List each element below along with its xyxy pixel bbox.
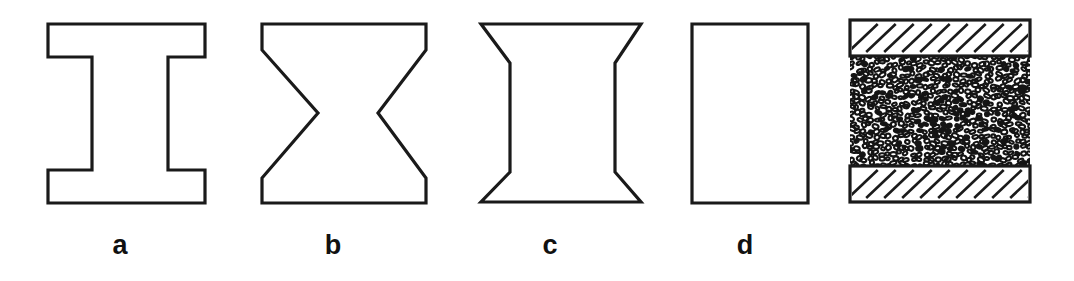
granular-particle (958, 146, 965, 152)
granular-particle (908, 145, 914, 151)
granular-particle (969, 161, 975, 165)
granular-particle (871, 149, 878, 155)
granular-particle (965, 67, 971, 72)
granular-particle (1006, 122, 1013, 127)
hatch-line (1028, 170, 1058, 198)
granular-particle (984, 157, 989, 160)
granular-particle (1021, 151, 1027, 156)
granular-particle (935, 60, 941, 64)
granular-particle (995, 76, 1002, 82)
granular-particle (885, 145, 891, 151)
granular-particle (958, 88, 964, 94)
granular-particle (898, 88, 903, 92)
granular-particle (960, 103, 967, 106)
granular-particle (878, 99, 884, 103)
granular-particle (972, 93, 978, 98)
panel-label-c: c (530, 232, 570, 259)
granular-particle (969, 110, 974, 115)
granular-particle (983, 87, 990, 94)
granular-particle (1007, 146, 1012, 150)
granular-particle (922, 122, 928, 126)
granular-particle (870, 160, 874, 164)
granular-particle (1019, 100, 1025, 104)
granular-particle (945, 116, 952, 120)
granular-particle (902, 151, 908, 157)
granular-particle (924, 97, 928, 101)
granular-particle (885, 133, 891, 139)
granular-particle (1026, 151, 1032, 156)
granular-particle (1012, 155, 1018, 159)
granular-particle (966, 93, 972, 99)
granular-particle (1001, 129, 1008, 134)
granular-particle (897, 150, 901, 154)
granular-particle (866, 88, 873, 94)
granular-particle (939, 99, 944, 103)
granular-particle (935, 157, 941, 162)
granular-particle (941, 90, 946, 93)
granular-particle (915, 78, 922, 83)
granular-particle (1015, 133, 1020, 137)
granular-particle (905, 139, 911, 144)
granular-particle (885, 157, 890, 161)
granular-particle (909, 93, 914, 98)
granular-particle (878, 84, 883, 87)
granular-particle (933, 84, 938, 88)
granular-particle (927, 71, 933, 75)
granular-particle (902, 94, 909, 100)
granular-particle (966, 121, 971, 126)
granular-particle (915, 157, 921, 161)
granular-particle (861, 60, 868, 67)
granular-particle (982, 123, 987, 127)
granular-particle (848, 65, 854, 71)
granular-particle (885, 152, 889, 155)
granular-particle (1009, 89, 1014, 93)
granular-particle (991, 140, 997, 145)
granular-particle (910, 71, 915, 76)
granular-particle (1027, 145, 1032, 149)
granular-particle (933, 134, 940, 138)
granular-particle (1008, 140, 1014, 144)
granular-particle (899, 59, 905, 65)
granular-particle (880, 91, 886, 95)
granular-particle (914, 114, 921, 118)
granular-particle (983, 83, 988, 88)
granular-particle (897, 117, 902, 120)
granular-particle (1006, 77, 1012, 82)
granular-particle (1025, 80, 1030, 84)
granular-particle (972, 83, 978, 87)
hatch-line (1028, 24, 1058, 52)
granular-particle (952, 83, 958, 87)
granular-particle (889, 72, 896, 77)
granular-particle (996, 107, 1001, 111)
granular-particle (1018, 124, 1025, 129)
granular-particle (989, 145, 995, 149)
granular-particle (928, 145, 934, 150)
granular-particle (988, 72, 993, 77)
granular-particle (964, 143, 969, 148)
granular-particle (1026, 71, 1030, 75)
granular-particle (885, 99, 891, 104)
granular-particle (1025, 129, 1030, 132)
granular-particle (931, 88, 936, 93)
granular-particle (896, 82, 904, 88)
granular-particle (892, 102, 898, 107)
granular-particle (953, 77, 958, 81)
granular-particle (965, 61, 970, 66)
granular-particle (892, 95, 898, 99)
granular-particle (996, 66, 1003, 70)
granular-particle (945, 123, 952, 129)
granular-particle (1025, 65, 1032, 70)
granular-particle (871, 94, 878, 100)
granular-particle (1027, 112, 1034, 116)
granular-particle (854, 138, 860, 143)
granular-particle (927, 93, 933, 98)
granular-particle (879, 71, 887, 78)
granular-particle-fill (847, 53, 1035, 169)
specimen-shape-a (48, 24, 205, 203)
granular-particle (916, 90, 920, 95)
granular-particle (955, 117, 959, 121)
granular-particle (872, 82, 878, 88)
granular-particle (1027, 133, 1033, 139)
granular-particle (873, 144, 879, 149)
granular-particle (964, 83, 969, 87)
